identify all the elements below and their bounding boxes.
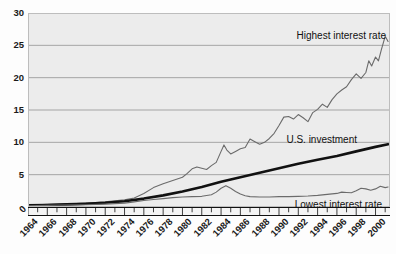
y-tick-label: 15 <box>13 105 24 115</box>
interest-rate-chart: 051015202530 Highest interest rate U.S. … <box>0 0 396 254</box>
plot-canvas <box>28 13 390 207</box>
series-line <box>28 36 388 205</box>
x-tick-label: 1996 <box>326 216 349 239</box>
x-tick-label: 1966 <box>36 216 59 239</box>
x-tick-label: 1976 <box>133 216 156 239</box>
y-tick-label: 10 <box>13 138 24 148</box>
highest-interest-rate-label: Highest interest rate <box>297 30 387 41</box>
x-tick-label: 1982 <box>191 216 214 239</box>
y-tick-label: 30 <box>13 8 24 18</box>
x-tick-label: 1964 <box>17 216 40 239</box>
y-axis: 051015202530 <box>0 0 28 215</box>
y-tick-label: 25 <box>13 41 24 51</box>
y-tick-label: 20 <box>13 73 24 83</box>
x-axis: 1964196619681970197219741976197819801982… <box>0 216 396 254</box>
x-axis-tick-strip <box>28 207 390 216</box>
y-tick-label-zero: 0 <box>16 203 28 215</box>
x-tick-label: 1998 <box>345 216 368 239</box>
x-tick-label: 1970 <box>75 216 98 239</box>
y-tick-label: 5 <box>19 170 24 180</box>
plot-area: Highest interest rate U.S. investment Lo… <box>28 13 390 207</box>
x-tick-label: 1994 <box>307 216 330 239</box>
x-tick-label: 1972 <box>94 216 117 239</box>
x-axis-ticks <box>28 208 390 215</box>
x-tick-label: 1984 <box>210 216 233 239</box>
x-tick-label: 2000 <box>365 216 388 239</box>
x-tick-label: 1974 <box>114 216 137 239</box>
x-tick-label: 1990 <box>268 216 291 239</box>
x-tick-label: 1988 <box>249 216 272 239</box>
x-tick-label: 1986 <box>229 216 252 239</box>
x-tick-label: 1980 <box>172 216 195 239</box>
x-tick-label: 1978 <box>152 216 175 239</box>
x-tick-label: 1992 <box>287 216 310 239</box>
us-investment-label: U.S. investment <box>286 134 357 145</box>
x-tick-label: 1968 <box>56 216 79 239</box>
